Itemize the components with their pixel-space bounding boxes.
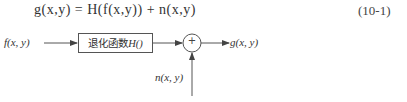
output-label: g(x, y) (230, 36, 258, 48)
noise-label: n(x, y) (155, 71, 183, 83)
input-label: f(x, y) (4, 36, 30, 48)
block-label-func: H() (128, 38, 143, 49)
degradation-function-block: 退化函数H() (78, 33, 153, 53)
block-label-cn: 退化函数 (88, 37, 128, 49)
block-diagram-lines (0, 0, 407, 102)
adder-plus-symbol: + (187, 35, 197, 46)
